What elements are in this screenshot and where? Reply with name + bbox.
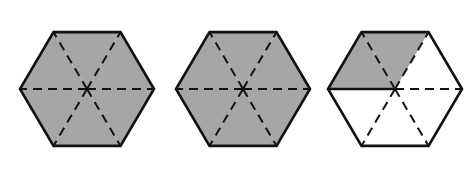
hexagon-1 (20, 32, 154, 146)
hexagon-3 (328, 32, 462, 146)
hexagon-diagram (0, 0, 471, 178)
fraction-hexagons-figure (0, 0, 471, 178)
hexagon-2 (176, 32, 310, 146)
